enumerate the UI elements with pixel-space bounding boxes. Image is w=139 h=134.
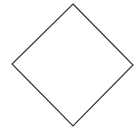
diamond-shape <box>12 4 133 126</box>
diamond-shape-svg <box>0 0 139 134</box>
diagram-canvas <box>0 0 139 134</box>
